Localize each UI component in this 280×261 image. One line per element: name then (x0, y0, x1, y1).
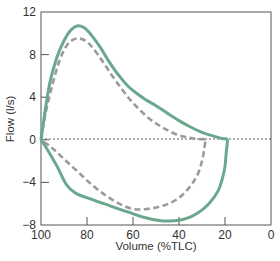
x-tick-label: 20 (218, 228, 232, 242)
x-tick-label: 0 (268, 228, 275, 242)
y-tick-label: 8 (29, 48, 36, 62)
solid-loop-curve (41, 26, 227, 221)
y-tick-label: 4 (29, 90, 36, 104)
x-tick-label: 80 (80, 228, 94, 242)
y-axis-title: Flow (l/s) (4, 96, 16, 143)
y-tick-label: 12 (23, 5, 37, 19)
x-axis-title: Volume (%TLC) (115, 240, 196, 252)
flow-volume-chart: 12840−4−8 100806040200 Volume (%TLC) Flo… (0, 0, 280, 261)
y-tick-label: −4 (22, 175, 36, 189)
y-tick-label: 0 (29, 133, 36, 147)
series-layer (41, 26, 227, 221)
x-tick-label: 100 (31, 228, 51, 242)
